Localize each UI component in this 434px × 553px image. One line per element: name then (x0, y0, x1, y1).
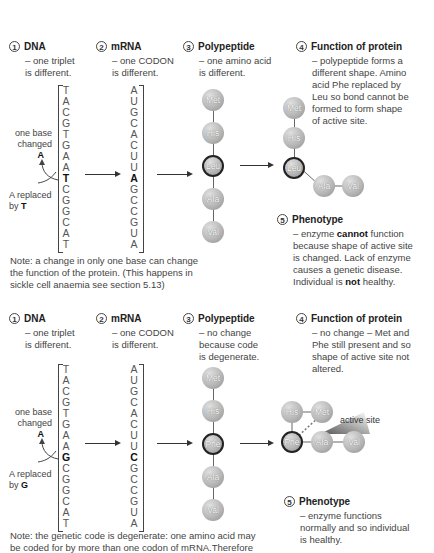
desc-line: because shape of active site (293, 240, 413, 252)
note-line: Note: a change in only one base can chan… (10, 255, 198, 267)
curved-arrow-icon (36, 437, 62, 463)
amino-acid-bead: Met (283, 97, 305, 119)
label-line: changed (14, 418, 52, 429)
a-replaced-label: A replaced by T (9, 190, 52, 212)
amino-acid-bead: Val (343, 431, 365, 453)
mrna-strand-bracket (139, 85, 144, 253)
desc-text: healthy. (360, 276, 395, 287)
bottom-func-desc: – no change – Met and Phe still present … (296, 327, 411, 375)
bottom-dna-desc: – one triplet is different. (9, 327, 75, 351)
amino-acid-bead: Ala (311, 431, 333, 453)
amino-acid-bead: His (202, 122, 224, 144)
top-poly-heading: 3Polypeptide (183, 41, 255, 53)
desc-text: function (368, 228, 404, 239)
mrna-strand-bracket (139, 364, 144, 532)
amino-acid-bead: Val (202, 221, 224, 243)
desc-line: – one CODON (112, 327, 174, 339)
desc-line: – no change – Met and (312, 327, 411, 339)
amino-acid-bead-changed: Phe (202, 433, 224, 455)
amino-acid-bead: Met (202, 367, 224, 389)
a-replaced-label: A replaced by G (9, 469, 52, 491)
arrow-right-icon (240, 443, 272, 444)
step-number: 3 (183, 41, 194, 52)
label-line: one base (14, 128, 52, 139)
amino-acid-bead: Ala (313, 175, 335, 197)
label-line: by (9, 480, 21, 490)
desc-line: is different. (112, 67, 174, 79)
desc-line: is different. (25, 67, 75, 79)
new-base: G (21, 480, 28, 490)
arrow-right-icon (85, 443, 119, 444)
desc-line: because code (199, 339, 259, 351)
amino-acid-bead: Val (342, 175, 364, 197)
heading-title: mRNA (111, 313, 142, 324)
note-line: sickle cell anaemia see section 5.13) (10, 279, 198, 291)
desc-line: shape of active site not (312, 351, 411, 363)
heading-title: Phenotype (299, 496, 350, 507)
desc-line: – enzyme functions (300, 510, 409, 522)
amino-acid-bead: His (283, 127, 305, 149)
step-number: 4 (296, 41, 307, 52)
step-number: 2 (96, 313, 107, 324)
desc-text: Individual is (293, 276, 345, 287)
amino-acid-bead-changed: Leu (202, 155, 224, 177)
desc-line: Phe still present and so (312, 339, 411, 351)
label-line: A replaced (9, 469, 52, 480)
desc-line: is different. (112, 339, 174, 351)
step-number: 5 (284, 496, 295, 507)
label-line: A replaced (9, 190, 52, 201)
desc-line: is different. (199, 67, 271, 79)
label-line: changed (14, 139, 52, 150)
bottom-mrna-desc: – one CODON is different. (96, 327, 174, 351)
amino-acid-bead: Ala (202, 188, 224, 210)
step-number: 1 (9, 313, 20, 324)
label-line: by (9, 201, 21, 211)
desc-line: – one CODON (112, 55, 174, 67)
dna-base: T (60, 239, 72, 250)
heading-title: mRNA (111, 41, 142, 52)
emphasis-text: cannot (337, 228, 368, 239)
top-pheno-desc: – enzyme cannot function because shape o… (277, 228, 413, 288)
desc-line: is healthy. (300, 534, 409, 546)
top-dna-heading: 1DNA (9, 41, 46, 53)
top-mrna-heading: 2mRNA (96, 41, 142, 53)
desc-text: – enzyme (293, 228, 337, 239)
desc-line: – polypeptide forms a (312, 55, 409, 67)
step-number: 2 (96, 41, 107, 52)
desc-line: normally and so individual (300, 522, 409, 534)
top-func-heading: 4Function of protein (296, 41, 402, 53)
step-number: 4 (296, 313, 307, 324)
heading-title: Phenotype (292, 214, 343, 225)
top-pheno-heading: 5Phenotype (277, 214, 343, 226)
arrow-right-icon (85, 174, 119, 175)
dna-base: T (60, 518, 72, 529)
desc-line: – no change (199, 327, 259, 339)
top-poly-desc: – one amino acid is different. (183, 55, 271, 79)
top-note: Note: a change in only one base can chan… (10, 255, 198, 291)
note-line: be coded for by more than one codon of m… (10, 542, 256, 553)
emphasis-text: not (345, 276, 360, 287)
bottom-poly-desc: – no change because code is degenerate. (183, 327, 259, 363)
arrow-right-icon (157, 174, 191, 175)
amino-acid-bead: Met (311, 401, 333, 423)
amino-acid-bead: Ala (202, 466, 224, 488)
top-dna-desc: – one triplet is different. (9, 55, 75, 79)
desc-line: is changed. Lack of enzyme (293, 252, 413, 264)
desc-line: Leu so bond cannot be (312, 91, 409, 103)
arrow-right-icon (157, 443, 191, 444)
desc-line: different shape. Amino (312, 67, 409, 79)
curved-arrow-icon (36, 158, 62, 184)
note-line: the function of the protein. (This happe… (10, 267, 198, 279)
one-base-changed-label: one base changed A (14, 128, 52, 161)
heading-title: Function of protein (311, 313, 402, 324)
amino-acid-bead: Val (202, 499, 224, 521)
heading-title: DNA (24, 41, 46, 52)
label-line: one base (14, 407, 52, 418)
heading-title: Function of protein (311, 41, 402, 52)
heading-title: Polypeptide (198, 41, 255, 52)
desc-line: of active site. (312, 115, 409, 127)
bottom-func-heading: 4Function of protein (296, 313, 402, 325)
amino-acid-bead: His (281, 401, 303, 423)
top-func-desc: – polypeptide forms a different shape. A… (296, 55, 409, 127)
note-line: Note: the genetic code is degenerate: on… (10, 530, 256, 542)
